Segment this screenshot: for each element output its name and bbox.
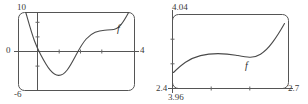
- y-axis-min-label: -6: [14, 90, 22, 99]
- plot-panel-wide-view: 10 -6 0 4 f: [0, 0, 154, 104]
- x-axis-max-label: 2.7: [288, 84, 299, 93]
- two-panel-function-figure: 10 -6 0 4 f 4.04 2.4: [0, 0, 308, 104]
- curve-label-f: f: [245, 61, 248, 71]
- x-axis-max-label: 4: [140, 46, 145, 55]
- origin-label: 0: [6, 46, 11, 55]
- curve-label-f: f: [117, 24, 120, 34]
- wide-view-svg: [0, 0, 154, 104]
- plot-panel-zoomed-view: 4.04 2.4 3.96 2.7 f: [154, 0, 308, 104]
- zoomed-view-svg: [154, 0, 308, 104]
- function-curve-f: [26, 13, 129, 76]
- function-curve-f: [174, 24, 285, 73]
- y-axis-max-label: 4.04: [172, 3, 188, 12]
- x-axis-min-label: 3.96: [168, 93, 184, 102]
- plot-frame: [173, 15, 289, 89]
- y-axis-min-label: 2.4: [156, 84, 167, 93]
- y-axis-max-label: 10: [17, 3, 26, 12]
